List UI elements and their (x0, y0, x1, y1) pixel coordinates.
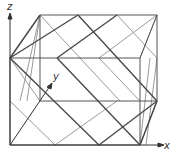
z-axis-label: z (6, 1, 13, 12)
axes (8, 13, 164, 147)
dark-edge (10, 15, 78, 58)
light-edge (117, 15, 157, 58)
cube-wireframe-diagram: z x y (0, 0, 170, 156)
light-edge (10, 101, 55, 145)
light-edge (99, 58, 140, 101)
y-axis-label: y (52, 71, 60, 82)
y-axis (10, 86, 50, 145)
x-axis-label: x (163, 140, 170, 151)
y-axis-arrow-icon (47, 83, 52, 89)
z-axis-arrow-icon (8, 13, 12, 19)
